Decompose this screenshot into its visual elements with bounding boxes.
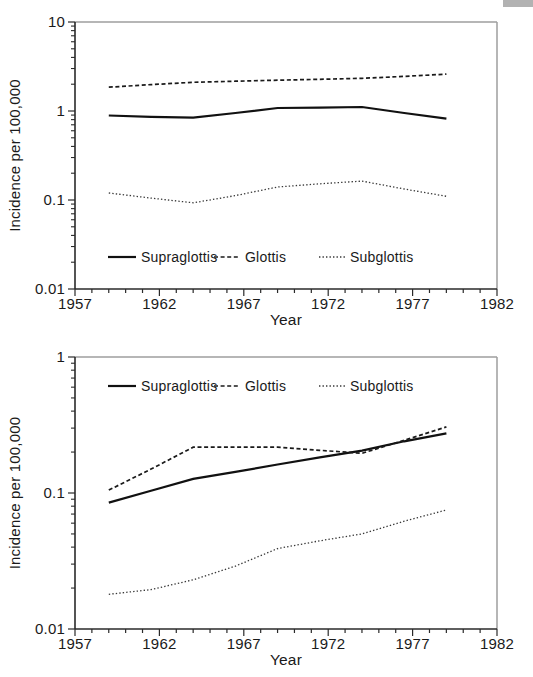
y-tick-label: 0.01 — [35, 620, 65, 637]
series-line-subglottis — [109, 181, 447, 203]
y-tick-label: 1 — [56, 102, 65, 119]
y-tick-label: 10 — [48, 13, 65, 30]
x-tick-label: 1982 — [480, 295, 514, 312]
x-tick-label: 1967 — [227, 635, 261, 652]
legend-label: Subglottis — [350, 378, 413, 394]
legend-label: Glottis — [245, 249, 286, 265]
y-axis-title: Incidence per 100,000 — [6, 417, 23, 570]
x-axis-title: Year — [270, 651, 302, 668]
legend-label: Supraglottis — [141, 378, 217, 394]
x-tick-label: 1967 — [227, 295, 261, 312]
legend-item-glottis: Glottis — [214, 378, 286, 394]
x-tick-label: 1972 — [311, 295, 345, 312]
series-line-glottis — [109, 74, 447, 87]
x-tick-label: 1977 — [396, 295, 430, 312]
x-tick-label: 1957 — [58, 295, 92, 312]
legend-label: Subglottis — [350, 249, 413, 265]
legend-item-subglottis: Subglottis — [319, 249, 413, 265]
incidence-chart-bottom: 1957196219671972197719820.010.11YearInci… — [0, 340, 533, 677]
series-line-subglottis — [109, 510, 447, 594]
legend-item-glottis: Glottis — [214, 249, 286, 265]
x-axis-title: Year — [270, 311, 302, 328]
x-tick-label: 1962 — [142, 635, 176, 652]
series-line-glottis — [109, 427, 447, 490]
incidence-chart-top: 1957196219671972197719820.010.1110YearIn… — [0, 0, 533, 340]
y-tick-label: 1 — [56, 348, 65, 365]
legend-label: Supraglottis — [141, 249, 217, 265]
y-tick-label: 0.1 — [44, 484, 65, 501]
x-tick-label: 1962 — [142, 295, 176, 312]
series-line-supraglottis — [109, 107, 447, 119]
x-tick-label: 1977 — [396, 635, 430, 652]
y-tick-label: 0.1 — [44, 191, 65, 208]
x-tick-label: 1957 — [58, 635, 92, 652]
legend-item-supraglottis: Supraglottis — [108, 249, 217, 265]
legend-item-supraglottis: Supraglottis — [108, 378, 217, 394]
figure-page: 1957196219671972197719820.010.1110YearIn… — [0, 0, 533, 677]
x-tick-label: 1982 — [480, 635, 514, 652]
legend-label: Glottis — [245, 378, 286, 394]
y-tick-label: 0.01 — [35, 280, 65, 297]
x-tick-label: 1972 — [311, 635, 345, 652]
scan-artifact — [503, 0, 533, 7]
y-axis-title: Incidence per 100,000 — [6, 79, 23, 232]
legend-item-subglottis: Subglottis — [319, 378, 413, 394]
